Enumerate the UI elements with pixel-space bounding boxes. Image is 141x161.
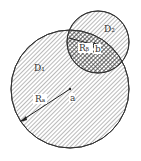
- label-rb: Rᵦ: [79, 43, 89, 53]
- label-ra: Rₐ: [35, 94, 46, 104]
- label-d1: D₁: [34, 63, 45, 73]
- intersecting-circles-diagram: D₁ D₂ Rₐ Rᵦ a b: [0, 0, 141, 161]
- label-d2: D₂: [104, 24, 115, 34]
- label-a: a: [70, 93, 76, 103]
- label-b: b: [95, 44, 101, 54]
- center-a-dot: [69, 88, 71, 90]
